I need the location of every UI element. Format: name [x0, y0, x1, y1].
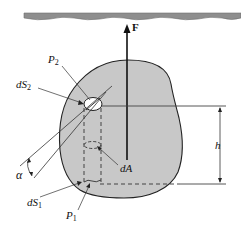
submerged-body — [60, 60, 183, 198]
force-arrowhead — [124, 24, 131, 33]
da-label: dA — [120, 163, 132, 174]
buoyancy-diagram: F P2 dS2 α dS1 P1 dA h — [0, 0, 241, 239]
h-label: h — [215, 140, 221, 151]
water-surface — [24, 13, 241, 20]
h-arrow-top — [218, 107, 222, 112]
p1-label: P1 — [66, 210, 77, 223]
ds2-label: dS2 — [16, 79, 31, 92]
ds1-label: dS1 — [27, 197, 42, 210]
p2-label: P2 — [48, 54, 59, 67]
ds1-leader — [40, 183, 79, 197]
alpha-label: α — [16, 169, 22, 181]
h-arrow-bottom — [218, 178, 222, 183]
force-label: F — [132, 22, 139, 33]
alpha-arrow-b — [29, 172, 33, 176]
alpha-arrow-a — [27, 158, 31, 163]
